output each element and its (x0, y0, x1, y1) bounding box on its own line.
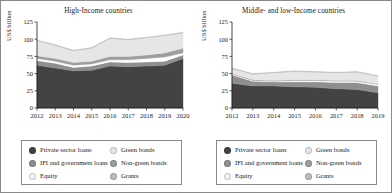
legend-item-grants[interactable]: Grants (305, 173, 371, 180)
legend-swatch-icon (110, 147, 117, 154)
legend-swatch-icon (305, 160, 312, 167)
legend-swatch-icon (305, 173, 312, 180)
legend-swatch-icon (224, 173, 231, 180)
legend-grid: Private sector loans Green bonds IFI and… (29, 144, 176, 184)
legend-swatch-icon (224, 147, 231, 154)
x-tick-label: 2016 (104, 112, 117, 119)
legend-item-private-sector-loans[interactable]: Private sector loans (29, 147, 108, 154)
legend-item-green-bonds[interactable]: Green bonds (305, 147, 371, 154)
panel-middle-and-low-income: Middle- and low-Income countries US$ bil… (196, 1, 391, 192)
legend-item-equity[interactable]: Equity (224, 173, 303, 180)
panel-high-income: High-Income countries US$ billion 025507… (1, 1, 196, 192)
x-tick-label: 2019 (372, 112, 385, 119)
plot-area-middle-and-low-income: 0255075100125201220132014201520162017201… (196, 18, 391, 126)
legend-item-green-bonds[interactable]: Green bonds (110, 147, 176, 154)
legend-item-grants[interactable]: Grants (110, 173, 176, 180)
legend-swatch-icon (110, 173, 117, 180)
x-tick-label: 2013 (49, 112, 62, 119)
legend-label: Green bonds (316, 147, 350, 154)
y-tick-label: 125 (218, 18, 228, 25)
area-chart-high-income: 0255075100125201220132014201520162017201… (1, 18, 197, 126)
panel-title: Middle- and low-Income countries (196, 7, 391, 15)
legend-item-ifi-and-government-loans[interactable]: IFI and government loans (29, 160, 108, 167)
legend-swatch-icon (29, 160, 36, 167)
panels-row: High-Income countries US$ billion 025507… (1, 1, 391, 192)
x-tick-label: 2014 (67, 112, 81, 119)
legend-label: Grants (121, 173, 139, 180)
panel-title: High-Income countries (1, 7, 196, 15)
y-tick-label: 75 (27, 53, 33, 60)
y-tick-label: 125 (23, 18, 33, 25)
y-tick-label: 50 (27, 70, 33, 77)
y-tick-label: 0 (30, 104, 33, 111)
x-tick-label: 2012 (226, 112, 239, 119)
legend-swatch-icon (110, 160, 117, 167)
legend-label: Non-green bonds (316, 160, 362, 167)
legend-label: Non-green bonds (121, 160, 167, 167)
x-tick-label: 2017 (330, 112, 344, 119)
y-tick-label: 100 (23, 36, 33, 43)
legend-label: Private sector loans (40, 147, 92, 154)
x-tick-label: 2019 (158, 112, 171, 119)
x-tick-label: 2020 (177, 112, 190, 119)
legend-middle-and-low-income: Private sector loans Green bonds IFI and… (216, 140, 377, 185)
y-tick-label: 50 (222, 70, 228, 77)
x-tick-label: 2013 (246, 112, 259, 119)
x-tick-label: 2014 (267, 112, 281, 119)
legend-item-ifi-and-government-loans[interactable]: IFI and government loans (224, 160, 303, 167)
legend-label: Private sector loans (235, 147, 287, 154)
legend-item-non-green-bonds[interactable]: Non-green bonds (110, 160, 176, 167)
legend-label: Grants (316, 173, 334, 180)
x-tick-label: 2018 (351, 112, 364, 119)
legend-item-equity[interactable]: Equity (29, 173, 108, 180)
legend-swatch-icon (305, 147, 312, 154)
legend-high-income: Private sector loans Green bonds IFI and… (21, 140, 182, 185)
x-tick-label: 2015 (85, 112, 98, 119)
x-tick-label: 2018 (140, 112, 153, 119)
legend-item-non-green-bonds[interactable]: Non-green bonds (305, 160, 371, 167)
figure-container: High-Income countries US$ billion 025507… (0, 0, 392, 193)
x-tick-label: 2012 (31, 112, 44, 119)
area-chart-middle-and-low-income: 0255075100125201220132014201520162017201… (196, 18, 392, 126)
legend-item-private-sector-loans[interactable]: Private sector loans (224, 147, 303, 154)
y-tick-label: 25 (222, 87, 228, 94)
legend-label: IFI and government loans (40, 160, 108, 167)
x-tick-label: 2016 (309, 112, 322, 119)
legend-grid: Private sector loans Green bonds IFI and… (224, 144, 371, 184)
x-tick-label: 2015 (288, 112, 301, 119)
legend-swatch-icon (29, 173, 36, 180)
y-tick-label: 25 (27, 87, 33, 94)
x-tick-label: 2017 (122, 112, 136, 119)
legend-label: Equity (235, 173, 253, 180)
y-tick-label: 100 (218, 36, 228, 43)
legend-swatch-icon (224, 160, 231, 167)
legend-label: IFI and government loans (235, 160, 303, 167)
legend-label: Equity (40, 173, 58, 180)
y-tick-label: 0 (225, 104, 228, 111)
plot-area-high-income: 0255075100125201220132014201520162017201… (1, 18, 196, 126)
legend-swatch-icon (29, 147, 36, 154)
legend-label: Green bonds (121, 147, 155, 154)
y-tick-label: 75 (222, 53, 228, 60)
